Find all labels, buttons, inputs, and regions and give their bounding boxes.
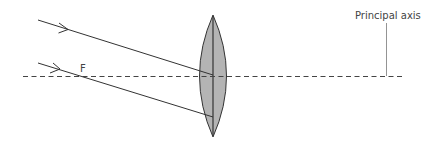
principal-axis-label: Principal axis: [355, 10, 421, 21]
lower-ray: [38, 63, 213, 117]
focal-point-label: F: [80, 63, 86, 74]
upper-ray: [38, 20, 213, 75]
ray-diagram: F Principal axis: [0, 0, 437, 142]
